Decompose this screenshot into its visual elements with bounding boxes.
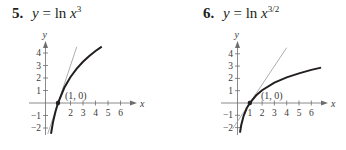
svg-text:4: 4 bbox=[228, 49, 233, 59]
svg-text:1: 1 bbox=[36, 86, 41, 96]
svg-text:4: 4 bbox=[93, 108, 98, 118]
svg-text:3: 3 bbox=[36, 61, 41, 71]
svg-text:2: 2 bbox=[36, 73, 41, 83]
svg-text:1: 1 bbox=[247, 108, 252, 118]
svg-text:6: 6 bbox=[309, 108, 314, 118]
point-marker bbox=[56, 101, 60, 105]
y-axis-label: y bbox=[234, 29, 240, 40]
svg-text:−2: −2 bbox=[31, 123, 41, 133]
x-tick-labels: 1 2 3 4 5 6 bbox=[247, 108, 313, 118]
svg-text:3: 3 bbox=[228, 61, 233, 71]
y-axis-arrow-icon bbox=[43, 41, 48, 48]
point-marker bbox=[248, 101, 252, 105]
point-label: (1, 0) bbox=[261, 90, 283, 102]
svg-text:2: 2 bbox=[68, 108, 73, 118]
svg-text:5: 5 bbox=[106, 108, 111, 118]
problem-5: 5. y = ln x3 x y 2 bbox=[0, 0, 173, 150]
x-tick-labels: 2 3 4 5 6 bbox=[68, 108, 123, 118]
svg-text:4: 4 bbox=[36, 48, 41, 58]
svg-text:1: 1 bbox=[228, 86, 233, 96]
svg-text:4: 4 bbox=[284, 108, 289, 118]
x-axis-label: x bbox=[139, 98, 145, 109]
graph-6: x y 1 2 3 4 5 6 4 3 2 1 −1 −2 (1, 0) bbox=[173, 0, 346, 150]
svg-text:6: 6 bbox=[118, 108, 123, 118]
svg-text:2: 2 bbox=[228, 73, 233, 83]
svg-text:5: 5 bbox=[297, 108, 302, 118]
svg-text:3: 3 bbox=[272, 108, 277, 118]
x-axis-label: x bbox=[330, 98, 336, 109]
graph-5: x y 2 3 4 5 6 4 3 2 1 −1 −2 (1, 0) bbox=[0, 0, 173, 150]
svg-text:3: 3 bbox=[81, 108, 86, 118]
y-tick-labels: 4 3 2 1 −1 −2 bbox=[31, 48, 41, 133]
x-axis-arrow-icon bbox=[130, 101, 137, 106]
point-label: (1, 0) bbox=[65, 90, 87, 102]
svg-text:2: 2 bbox=[260, 108, 265, 118]
svg-text:−1: −1 bbox=[223, 110, 233, 120]
svg-text:−2: −2 bbox=[223, 123, 233, 133]
svg-text:−1: −1 bbox=[31, 111, 41, 121]
y-axis-arrow-icon bbox=[235, 41, 240, 48]
y-axis-label: y bbox=[42, 29, 48, 40]
x-axis-arrow-icon bbox=[321, 101, 328, 106]
y-tick-labels: 4 3 2 1 −1 −2 bbox=[223, 49, 233, 133]
problem-6: 6. y = ln x3/2 x y 1 2 bbox=[173, 0, 346, 150]
